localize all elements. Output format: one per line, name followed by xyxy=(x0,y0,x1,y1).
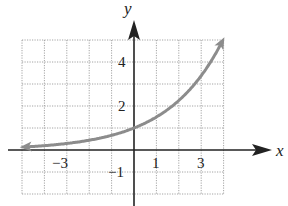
exponential-graph: y x −3 1 3 4 2 −1 xyxy=(0,0,288,206)
y-tick-neg1: −1 xyxy=(108,164,124,180)
x-axis-label: x xyxy=(275,141,284,160)
x-tick-3: 3 xyxy=(197,155,205,171)
x-tick-1: 1 xyxy=(152,155,160,171)
y-axis-label: y xyxy=(122,0,132,18)
y-axis xyxy=(128,20,140,206)
y-tick-2: 2 xyxy=(118,98,126,114)
x-tick-neg3: −3 xyxy=(52,155,68,171)
y-tick-4: 4 xyxy=(118,54,126,70)
